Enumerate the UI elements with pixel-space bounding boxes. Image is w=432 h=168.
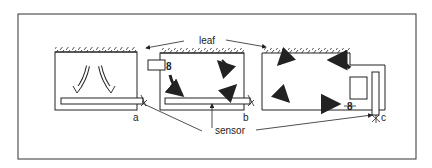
diagram-canvas: a 8 b 8 [0,0,432,168]
sensor-plate-a [61,98,143,104]
sensor-leader-a [146,105,202,131]
ceiling-hatch [55,47,137,52]
ceiling-hatch [160,48,244,53]
leaf-leader-c [226,40,266,47]
sensor-vertical-c [372,72,379,115]
fan-icon: 8 [166,61,172,72]
ceiling-hatch [262,48,350,53]
fan-motor [148,60,165,70]
panel-a: a [55,47,147,123]
leaf-leader-a [146,41,184,48]
panel-c: 8 c [262,48,386,123]
label-b: b [243,112,249,123]
label-sensor: sensor [215,125,246,136]
sensor-leader-c [256,115,372,130]
sensor-plate-b [165,98,250,104]
label-c: c [381,112,386,123]
label-a: a [133,112,139,123]
fan-icon: 8 [347,101,353,112]
fan-motor [350,77,367,99]
panel-b: 8 b [142,48,254,123]
label-leaf: leaf [199,35,215,46]
